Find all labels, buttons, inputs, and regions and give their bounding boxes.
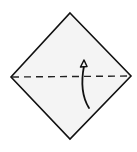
- origami-diagram: [0, 0, 137, 152]
